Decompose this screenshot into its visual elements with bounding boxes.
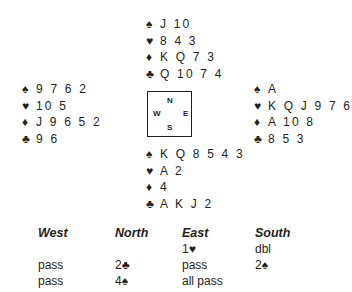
west-clubs-row: ♣ 9 6 bbox=[22, 131, 102, 148]
spade-icon: ♠ bbox=[254, 81, 268, 98]
heart-icon: ♥ bbox=[22, 98, 36, 115]
compass-box: N W E S bbox=[147, 91, 192, 137]
west-hearts: 10 5 bbox=[36, 98, 68, 115]
bid-south: 2♠ bbox=[255, 258, 268, 272]
north-diamonds: K Q 7 3 bbox=[160, 49, 216, 66]
club-icon: ♣ bbox=[146, 66, 160, 83]
bid-north: 2♣ bbox=[115, 258, 130, 272]
west-hearts-row: ♥ 10 5 bbox=[22, 98, 102, 115]
east-diamonds-row: ♦ A 10 8 bbox=[254, 114, 352, 131]
east-hearts: K Q J 9 7 6 bbox=[268, 98, 352, 115]
north-hand: ♠ J 10 ♥ 8 4 3 ♦ K Q 7 3 ♣ Q 10 7 4 bbox=[146, 16, 224, 82]
north-clubs-row: ♣ Q 10 7 4 bbox=[146, 66, 224, 83]
south-clubs: A K J 2 bbox=[160, 196, 213, 213]
bid-west: pass bbox=[38, 274, 63, 288]
diamond-icon: ♦ bbox=[146, 49, 160, 66]
north-hearts: 8 4 3 bbox=[160, 33, 198, 50]
bid-north: 4♠ bbox=[115, 274, 128, 288]
auction-row: 1♥ dbl bbox=[0, 242, 344, 258]
header-east: East bbox=[182, 226, 208, 240]
south-diamonds-row: ♦ 4 bbox=[146, 179, 245, 196]
north-hearts-row: ♥ 8 4 3 bbox=[146, 33, 224, 50]
diamond-icon: ♦ bbox=[254, 114, 268, 131]
west-diamonds-row: ♦ J 9 6 5 2 bbox=[22, 114, 102, 131]
compass-east-label: E bbox=[183, 109, 188, 118]
west-diamonds: J 9 6 5 2 bbox=[36, 114, 102, 131]
club-icon: ♣ bbox=[22, 131, 36, 148]
west-spades: 9 7 6 2 bbox=[36, 81, 88, 98]
club-icon: ♣ bbox=[254, 131, 268, 148]
bid-east: all pass bbox=[182, 274, 223, 288]
compass-west-label: W bbox=[153, 109, 161, 118]
north-spades-row: ♠ J 10 bbox=[146, 16, 224, 33]
auction-row: pass 4♠ all pass bbox=[0, 274, 344, 290]
auction-header-row: West North East South bbox=[0, 226, 344, 242]
north-diamonds-row: ♦ K Q 7 3 bbox=[146, 49, 224, 66]
east-diamonds: A 10 8 bbox=[268, 114, 315, 131]
heart-icon: ♥ bbox=[146, 33, 160, 50]
south-spades: K Q 8 5 4 3 bbox=[160, 146, 245, 163]
east-hearts-row: ♥ K Q J 9 7 6 bbox=[254, 98, 352, 115]
bid-south: dbl bbox=[255, 242, 271, 256]
bid-east: 1♥ bbox=[182, 242, 196, 256]
bid-west: pass bbox=[38, 258, 63, 272]
compass-south-label: S bbox=[167, 123, 172, 132]
north-spades: J 10 bbox=[160, 16, 191, 33]
east-clubs-row: ♣ 8 5 3 bbox=[254, 131, 352, 148]
spade-icon: ♠ bbox=[146, 146, 160, 163]
east-hand: ♠ A ♥ K Q J 9 7 6 ♦ A 10 8 ♣ 8 5 3 bbox=[254, 81, 352, 147]
header-south: South bbox=[255, 226, 290, 240]
west-spades-row: ♠ 9 7 6 2 bbox=[22, 81, 102, 98]
south-hearts-row: ♥ A 2 bbox=[146, 163, 245, 180]
south-hearts: A 2 bbox=[160, 163, 184, 180]
bid-east: pass bbox=[182, 258, 207, 272]
east-spades-row: ♠ A bbox=[254, 81, 352, 98]
spade-icon: ♠ bbox=[146, 16, 160, 33]
south-spades-row: ♠ K Q 8 5 4 3 bbox=[146, 146, 245, 163]
heart-icon: ♥ bbox=[146, 163, 160, 180]
club-icon: ♣ bbox=[146, 196, 160, 213]
east-spades: A bbox=[268, 81, 278, 98]
compass-north-label: N bbox=[167, 96, 173, 105]
east-clubs: 8 5 3 bbox=[268, 131, 306, 148]
header-north: North bbox=[115, 226, 148, 240]
west-clubs: 9 6 bbox=[36, 131, 59, 148]
west-hand: ♠ 9 7 6 2 ♥ 10 5 ♦ J 9 6 5 2 ♣ 9 6 bbox=[22, 81, 102, 147]
heart-icon: ♥ bbox=[254, 98, 268, 115]
header-west: West bbox=[38, 226, 68, 240]
auction-row: pass 2♣ pass 2♠ bbox=[0, 258, 344, 274]
north-clubs: Q 10 7 4 bbox=[160, 66, 224, 83]
auction-table: West North East South 1♥ dbl pass 2♣ pas… bbox=[0, 226, 344, 290]
south-hand: ♠ K Q 8 5 4 3 ♥ A 2 ♦ 4 ♣ A K J 2 bbox=[146, 146, 245, 212]
south-clubs-row: ♣ A K J 2 bbox=[146, 196, 245, 213]
diamond-icon: ♦ bbox=[22, 114, 36, 131]
spade-icon: ♠ bbox=[22, 81, 36, 98]
diamond-icon: ♦ bbox=[146, 179, 160, 196]
south-diamonds: 4 bbox=[160, 179, 169, 196]
